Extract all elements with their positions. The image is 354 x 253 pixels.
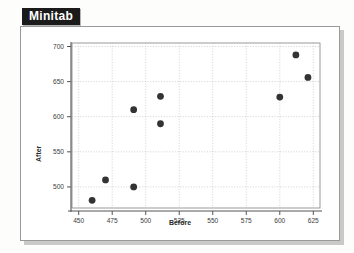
data-point xyxy=(305,74,312,81)
figure-frame: 500550600650700450475500525550575600625 … xyxy=(20,26,340,241)
y-axis-tick-label: 700 xyxy=(53,43,64,50)
y-axis-title: After xyxy=(35,146,42,162)
x-axis-title: Before xyxy=(21,219,339,226)
data-point xyxy=(157,93,164,100)
data-point xyxy=(102,177,109,184)
y-axis-tick-label: 500 xyxy=(53,183,64,190)
data-point xyxy=(292,52,299,59)
y-axis-tick-label: 650 xyxy=(53,78,64,85)
data-point xyxy=(130,184,137,191)
y-axis-tick-label: 550 xyxy=(53,148,64,155)
y-axis-tick-label: 600 xyxy=(53,113,64,120)
data-point xyxy=(276,94,283,101)
scatter-chart: 500550600650700450475500525550575600625 xyxy=(21,27,341,242)
minitab-title-badge: Minitab xyxy=(22,8,80,25)
figure-page: Minitab 50055060065070045047550052555057… xyxy=(0,0,354,253)
data-point xyxy=(157,120,164,127)
data-point xyxy=(130,106,137,113)
plot-area-border xyxy=(72,43,320,208)
data-point xyxy=(89,197,96,204)
